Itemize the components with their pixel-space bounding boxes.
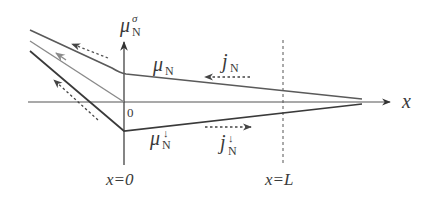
- left-upper-dashed-arrow: [72, 44, 108, 58]
- y-axis-label: μ N σ: [119, 12, 141, 39]
- x-equals-L-label: x=L: [264, 170, 293, 189]
- diagram-canvas: μ N σ x 0 μ N μ N ↓ j N j N ↓ x=0 x=L: [0, 0, 422, 197]
- mu-down-label: μ N ↓: [149, 127, 171, 152]
- svg-text:N: N: [132, 25, 141, 39]
- svg-text:σ: σ: [132, 12, 138, 24]
- origin-label: 0: [127, 105, 134, 120]
- svg-text:↓: ↓: [228, 132, 234, 144]
- j-up-label: j N: [219, 50, 239, 75]
- x-axis-label: x: [401, 90, 411, 112]
- left-lower-dashed-arrow: [54, 80, 98, 120]
- svg-text:N: N: [165, 64, 174, 78]
- svg-text:j: j: [219, 50, 228, 73]
- svg-text:μ: μ: [149, 127, 160, 150]
- x-equals-0-label: x=0: [105, 170, 134, 189]
- svg-text:N: N: [230, 61, 239, 75]
- svg-text:μ: μ: [119, 14, 130, 37]
- svg-text:μ: μ: [152, 53, 163, 76]
- mu-down-curve: [30, 51, 362, 131]
- mu-mid-line: [30, 41, 124, 102]
- j-down-label: j N ↓: [217, 131, 237, 158]
- svg-text:N: N: [228, 144, 237, 158]
- mu-up-curve: [30, 30, 362, 99]
- svg-text:j: j: [217, 131, 226, 154]
- svg-text:N: N: [162, 138, 171, 152]
- mu-up-label: μ N: [152, 53, 174, 78]
- svg-text:↓: ↓: [163, 127, 169, 139]
